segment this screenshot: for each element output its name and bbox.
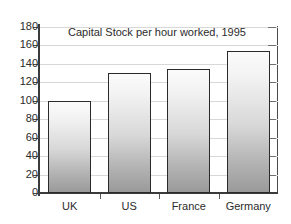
bar-france [167,69,210,194]
x-axis-tick [100,194,101,199]
y-axis-tick-label: 160 [8,39,38,50]
y-axis-tick-label: 120 [8,76,38,87]
x-axis-tick [159,194,160,199]
bar-chart: Capital Stock per hour worked, 1995 0204… [0,0,291,224]
bar-us [108,73,151,193]
y-axis-tick-label: 180 [8,21,38,32]
y-axis-tick-label: 0 [8,187,38,198]
y-axis-tick-label: 140 [8,58,38,69]
y-axis-tick-label: 100 [8,95,38,106]
x-axis-tick [219,194,220,199]
y-axis-tick-label: 20 [8,169,38,180]
y-axis-tick-label: 60 [8,132,38,143]
x-axis-tick-label: Germany [208,200,288,212]
y-axis-tick-label: 40 [8,150,38,161]
bar-uk [48,101,91,193]
bar-germany [227,51,270,193]
plot-area [40,27,278,193]
y-axis-tick-label: 80 [8,113,38,124]
